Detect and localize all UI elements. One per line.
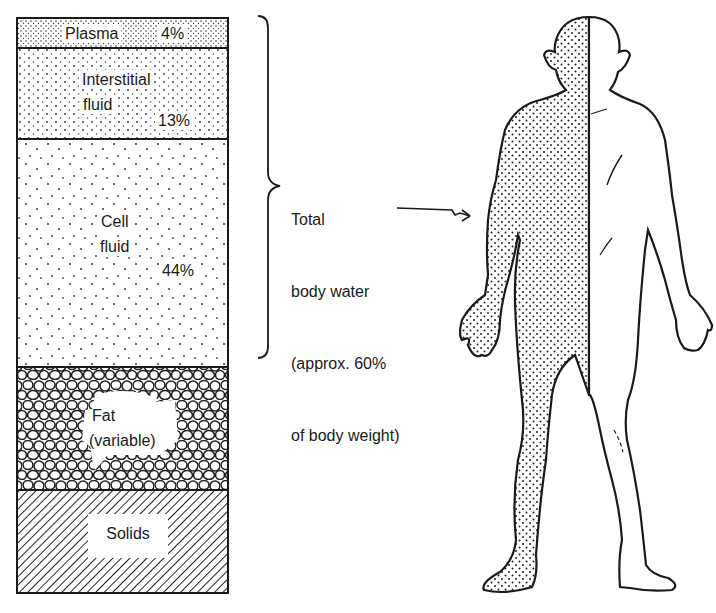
plasma-value: 4%	[158, 24, 187, 43]
outline-body-half	[589, 17, 712, 591]
solids-label-box: Solids	[88, 514, 168, 558]
note-line-1: Total	[291, 208, 400, 232]
human-figure	[460, 17, 712, 592]
note-line-2: body water	[291, 280, 400, 304]
fat-label-line2: (variable)	[89, 431, 156, 450]
note-line-4: of body weight)	[291, 424, 400, 448]
stippled-body-half	[460, 17, 589, 592]
fat-label-line1: Fat	[92, 406, 115, 425]
pointer-arrow	[397, 208, 470, 221]
total-water-bracket	[258, 16, 280, 358]
compartment-column	[17, 18, 228, 593]
plasma-label: Plasma	[62, 24, 121, 43]
interstitial-segment	[17, 48, 228, 139]
interstitial-label-line2: fluid	[80, 95, 115, 114]
solids-label: Solids	[106, 525, 150, 542]
note-line-3: (approx. 60%	[291, 352, 400, 376]
cell-fluid-value: 44%	[159, 261, 197, 280]
interstitial-value: 13%	[155, 111, 193, 130]
cell-fluid-label-line1: Cell	[98, 212, 132, 231]
cell-fluid-label-line2: fluid	[97, 237, 132, 256]
interstitial-label-line1: Interstitial	[79, 70, 153, 89]
total-water-note: Total body water (approx. 60% of body we…	[291, 160, 400, 472]
plasma-segment	[17, 18, 228, 48]
